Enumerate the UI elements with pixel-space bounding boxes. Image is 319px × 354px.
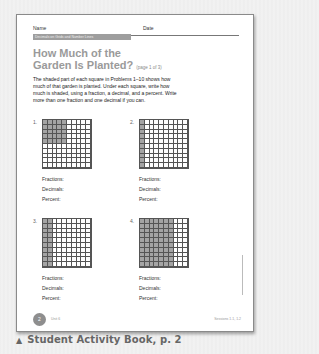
problem-2: 2. Fractions: Decimals: Percent: (139, 119, 189, 204)
hundred-grid (42, 119, 92, 169)
problem-3: 3. Fractions: Decimals: Percent: (42, 218, 92, 303)
title-line-1: How Much of the (33, 47, 162, 59)
copyright-notice (242, 255, 244, 295)
page-title: How Much of the Garden Is Planted? (page… (33, 47, 162, 74)
problem-4: 4. Fractions: Decimals: Percent: (139, 218, 189, 303)
worksheet-page: Name Date Decimals on Grids and Number L… (16, 14, 254, 332)
sessions-label: Sessions 1.1, 1.2 (214, 317, 241, 321)
answer-labels: Fractions: Decimals: Percent: (42, 174, 92, 204)
decimals-label: Decimals: (139, 283, 189, 293)
percent-label: Percent: (139, 293, 189, 303)
triangle-up-icon: ▲ (16, 336, 22, 345)
answer-labels: Fractions: Decimals: Percent: (139, 273, 189, 303)
answer-labels: Fractions: Decimals: Percent: (139, 174, 189, 204)
hundred-grid (42, 218, 92, 268)
name-label: Name (33, 25, 46, 31)
answer-labels: Fractions: Decimals: Percent: (42, 273, 92, 303)
page-indicator: (page 1 of 3) (136, 65, 162, 70)
caption-text: Student Activity Book, p. 2 (27, 334, 181, 345)
problem-1: 1. Fractions: Decimals: Percent: (42, 119, 92, 204)
fractions-label: Fractions: (139, 174, 189, 184)
title-line-2: Garden Is Planted? (page 1 of 3) (33, 59, 162, 74)
percent-label: Percent: (42, 194, 92, 204)
fractions-label: Fractions: (42, 174, 92, 184)
problem-number: 3. (33, 218, 37, 224)
problem-number: 1. (33, 119, 37, 125)
figure-caption: ▲Student Activity Book, p. 2 (16, 334, 182, 345)
grid-cell (183, 163, 188, 168)
fractions-label: Fractions: (42, 273, 92, 283)
decimals-label: Decimals: (42, 283, 92, 293)
hundred-grid (139, 119, 189, 169)
unit-banner: Decimals on Grids and Number Lines (33, 34, 131, 40)
instructions: The shaded part of each square in Proble… (33, 76, 183, 104)
fractions-label: Fractions: (139, 273, 189, 283)
decimals-label: Decimals: (139, 184, 189, 194)
date-label: Date (143, 25, 154, 31)
grid-cell (183, 262, 188, 267)
title-line-2-text: Garden Is Planted? (33, 59, 133, 71)
decimals-label: Decimals: (42, 184, 92, 194)
grid-cell (86, 262, 91, 267)
percent-label: Percent: (139, 194, 189, 204)
grid-cell (86, 163, 91, 168)
unit-label: Unit 6 (51, 317, 60, 321)
problem-number: 4. (130, 218, 134, 224)
percent-label: Percent: (42, 293, 92, 303)
page-number-badge: 2 (33, 313, 46, 326)
problem-number: 2. (130, 119, 134, 125)
hundred-grid (139, 218, 189, 268)
